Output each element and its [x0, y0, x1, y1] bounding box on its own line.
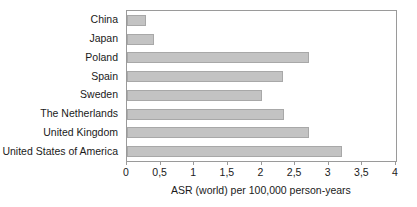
- axis-tick-mark: [328, 161, 329, 165]
- bar: [127, 71, 283, 82]
- value-axis: 00,511,522,533,54: [126, 161, 396, 183]
- axis-tick-label: 1,5: [220, 166, 235, 178]
- bar: [127, 15, 146, 26]
- value-axis-title: ASR (world) per 100,000 person-years: [126, 184, 396, 196]
- category-label: The Netherlands: [40, 104, 118, 122]
- axis-tick-mark: [160, 161, 161, 165]
- bar: [127, 90, 262, 101]
- axis-tick-label: 2: [258, 166, 264, 178]
- bar: [127, 127, 309, 138]
- axis-tick-label: 0,5: [152, 166, 167, 178]
- category-label: China: [91, 10, 118, 28]
- axis-tick-mark: [193, 161, 194, 165]
- category-label: United Kingdom: [43, 123, 118, 141]
- category-axis-labels: ChinaJapanPolandSpainSwedenThe Netherlan…: [0, 10, 122, 160]
- category-label: Japan: [89, 29, 118, 47]
- bar: [127, 146, 342, 157]
- axis-tick-mark: [126, 161, 127, 165]
- axis-tick-mark: [227, 161, 228, 165]
- category-label: United States of America: [2, 142, 118, 160]
- axis-tick-label: 4: [392, 166, 398, 178]
- bar-chart: ChinaJapanPolandSpainSwedenThe Netherlan…: [0, 0, 417, 207]
- axis-tick-mark: [261, 161, 262, 165]
- category-label: Sweden: [80, 85, 118, 103]
- axis-tick-mark: [361, 161, 362, 165]
- axis-tick-label: 3: [325, 166, 331, 178]
- axis-tick-mark: [294, 161, 295, 165]
- axis-tick-mark: [395, 161, 396, 165]
- category-label: Spain: [91, 67, 118, 85]
- axis-tick-label: 1: [190, 166, 196, 178]
- plot-area: [126, 10, 397, 162]
- bar: [127, 34, 154, 45]
- bar: [127, 109, 284, 120]
- axis-tick-label: 3,5: [354, 166, 369, 178]
- bar: [127, 52, 309, 63]
- bar-series: [127, 11, 396, 161]
- axis-tick-label: 2,5: [287, 166, 302, 178]
- axis-tick-label: 0: [123, 166, 129, 178]
- category-label: Poland: [85, 48, 118, 66]
